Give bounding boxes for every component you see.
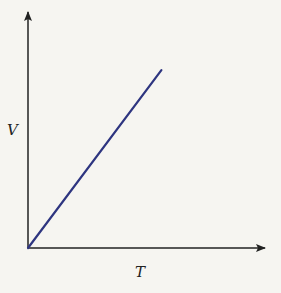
chart: V T [0,0,281,293]
y-axis-label: V [7,121,20,139]
series-layer [28,70,161,248]
series-line-0 [28,70,161,248]
x-axis-label: T [135,263,146,281]
